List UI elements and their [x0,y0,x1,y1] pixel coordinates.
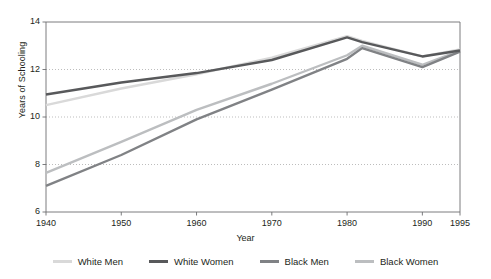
y-tick-label: 8 [18,159,40,169]
y-tick-label: 12 [18,64,40,74]
chart-legend: White MenWhite WomenBlack MenBlack Women [0,250,491,272]
series-line-black-women [46,46,460,173]
x-tick-label: 1995 [440,218,480,228]
legend-swatch-icon [260,260,279,263]
y-tick-label: 14 [18,16,40,26]
series-line-white-women [46,37,460,94]
x-tick-label: 1960 [177,218,217,228]
plot-area [0,0,491,225]
legend-swatch-icon [53,260,72,263]
x-axis-title: Year [0,233,491,243]
legend-item: Black Women [355,256,438,267]
line-chart: Years of Schooling 14121086 194019501960… [0,0,491,279]
y-tick-label: 6 [18,206,40,216]
x-tick-label: 1980 [327,218,367,228]
legend-label: Black Men [285,256,329,267]
legend-label: White Women [174,256,233,267]
plot-svg [0,0,491,225]
legend-label: Black Women [380,256,438,267]
y-tick-label: 10 [18,111,40,121]
series-lines [46,36,460,186]
legend-swatch-icon [149,260,168,263]
x-tick-label: 1990 [402,218,442,228]
legend-label: White Men [78,256,123,267]
series-line-white-men [46,36,460,105]
legend-item: White Men [53,256,123,267]
x-tick-label: 1940 [26,218,66,228]
x-tick-label: 1950 [101,218,141,228]
legend-swatch-icon [355,260,374,263]
x-tick-label: 1970 [252,218,292,228]
legend-item: White Women [149,256,233,267]
legend-item: Black Men [260,256,329,267]
